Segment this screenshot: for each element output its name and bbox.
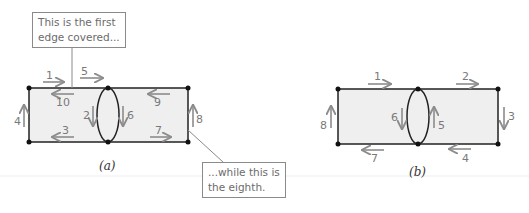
label-a9: 9 bbox=[154, 96, 161, 109]
label-b1: 1 bbox=[374, 70, 381, 83]
callout-bottom-leader bbox=[188, 130, 223, 162]
caption-a: (a) bbox=[99, 159, 116, 173]
callout-first-edge-line1: This is the first bbox=[38, 15, 120, 30]
callout-first-edge: This is the first edge covered... bbox=[32, 12, 126, 48]
graph-a-rectangle bbox=[29, 88, 188, 142]
label-a7: 7 bbox=[155, 124, 162, 137]
callout-eighth-edge-line1: ...while this is bbox=[208, 165, 280, 180]
label-b5: 5 bbox=[438, 119, 445, 132]
label-b2: 2 bbox=[462, 70, 469, 83]
graph-b-rectangle bbox=[338, 89, 498, 144]
callout-eighth-edge: ...while this is the eighth. bbox=[202, 162, 286, 198]
label-a8: 8 bbox=[196, 113, 203, 126]
label-b4: 4 bbox=[462, 152, 469, 165]
label-a2: 2 bbox=[83, 109, 90, 122]
callout-eighth-edge-line2: the eighth. bbox=[208, 180, 280, 195]
graph-a: 1 5 10 9 2 6 3 7 4 8 (a) bbox=[14, 48, 223, 173]
label-a5: 5 bbox=[81, 65, 88, 78]
euler-circuit-figure: 1 5 10 9 2 6 3 7 4 8 (a) 1 2 3 4 bbox=[0, 0, 529, 213]
label-a10: 10 bbox=[56, 96, 70, 109]
label-a1: 1 bbox=[46, 69, 53, 82]
label-b7: 7 bbox=[371, 152, 378, 165]
label-b3: 3 bbox=[508, 110, 515, 123]
label-a4: 4 bbox=[14, 115, 21, 128]
label-b8: 8 bbox=[320, 119, 327, 132]
graph-b: 1 2 3 4 5 6 7 8 (b) bbox=[320, 70, 515, 179]
label-a3: 3 bbox=[62, 124, 69, 137]
caption-b: (b) bbox=[409, 165, 426, 179]
label-a6: 6 bbox=[127, 109, 134, 122]
callout-first-edge-line2: edge covered... bbox=[38, 30, 120, 45]
label-b6: 6 bbox=[391, 111, 398, 124]
